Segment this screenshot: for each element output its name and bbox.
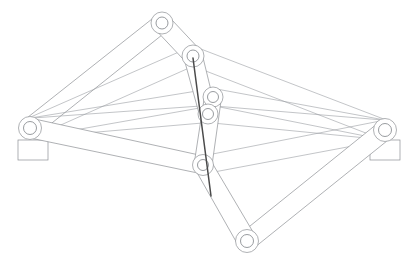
right-ground-pivot-bore [379,124,392,137]
link-left-ground-to-low-inner [28,118,205,173]
left-ground-pivot-bore [24,122,37,135]
links-layer [24,16,391,249]
upper-outer-pivot-bore [156,17,168,29]
link-right-ground-to-bottom [241,122,391,248]
mechanism-drawing [0,0,415,269]
middle-upper-pivot-bore [208,92,219,103]
middle-lower-pivot-bore [203,109,214,120]
drawing-canvas [0,0,415,269]
left-base-plate [18,140,48,160]
bottom-outer-pivot-bore [241,235,254,248]
link-right-ground-to-mid-upper [211,89,386,140]
